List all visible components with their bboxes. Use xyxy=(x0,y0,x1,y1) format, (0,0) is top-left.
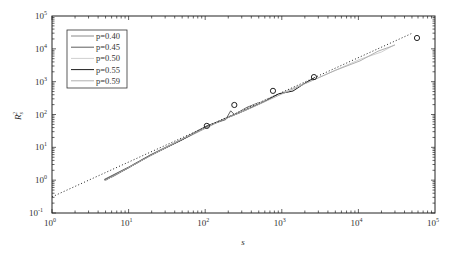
x-tick-label: 100 xyxy=(44,217,56,228)
y-tick-label: 102 xyxy=(35,109,47,120)
chart: 10010110210310410510-1100101102103104105… xyxy=(0,0,456,256)
legend-label: p=0.45 xyxy=(96,42,120,52)
legend: p=0.40p=0.45p=0.50p=0.55p=0.59 xyxy=(67,30,127,88)
svg-text:Rs2: Rs2 xyxy=(12,111,23,121)
y-axis-label: Rs2 xyxy=(12,111,23,121)
x-tick-label: 101 xyxy=(121,217,133,228)
y-tick-label: 104 xyxy=(35,43,47,54)
y-tick-label: 105 xyxy=(35,10,47,21)
y-tick-label: 103 xyxy=(35,76,47,87)
legend-label: p=0.59 xyxy=(96,76,120,86)
legend-label: p=0.50 xyxy=(96,53,120,63)
legend-label: p=0.55 xyxy=(96,65,120,75)
x-axis-label: s xyxy=(241,237,245,247)
legend-label: p=0.40 xyxy=(96,31,120,41)
y-tick-label: 10-1 xyxy=(29,207,43,218)
x-tick-label: 105 xyxy=(427,217,439,228)
y-tick-label: 101 xyxy=(35,141,47,152)
y-tick-label: 100 xyxy=(35,174,47,185)
x-tick-label: 102 xyxy=(197,217,209,228)
x-tick-label: 104 xyxy=(350,217,362,228)
x-tick-label: 103 xyxy=(274,217,286,228)
